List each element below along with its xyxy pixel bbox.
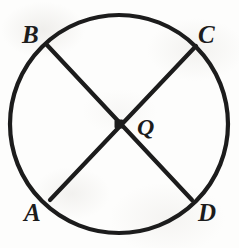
point-label-c: C — [198, 22, 215, 47]
point-label-d: D — [198, 200, 216, 225]
point-label-b: B — [22, 22, 39, 47]
point-label-a: A — [24, 200, 41, 225]
geometry-figure: B C A D Q — [0, 0, 239, 248]
point-label-q: Q — [137, 115, 154, 139]
center-point-marker — [115, 120, 124, 129]
